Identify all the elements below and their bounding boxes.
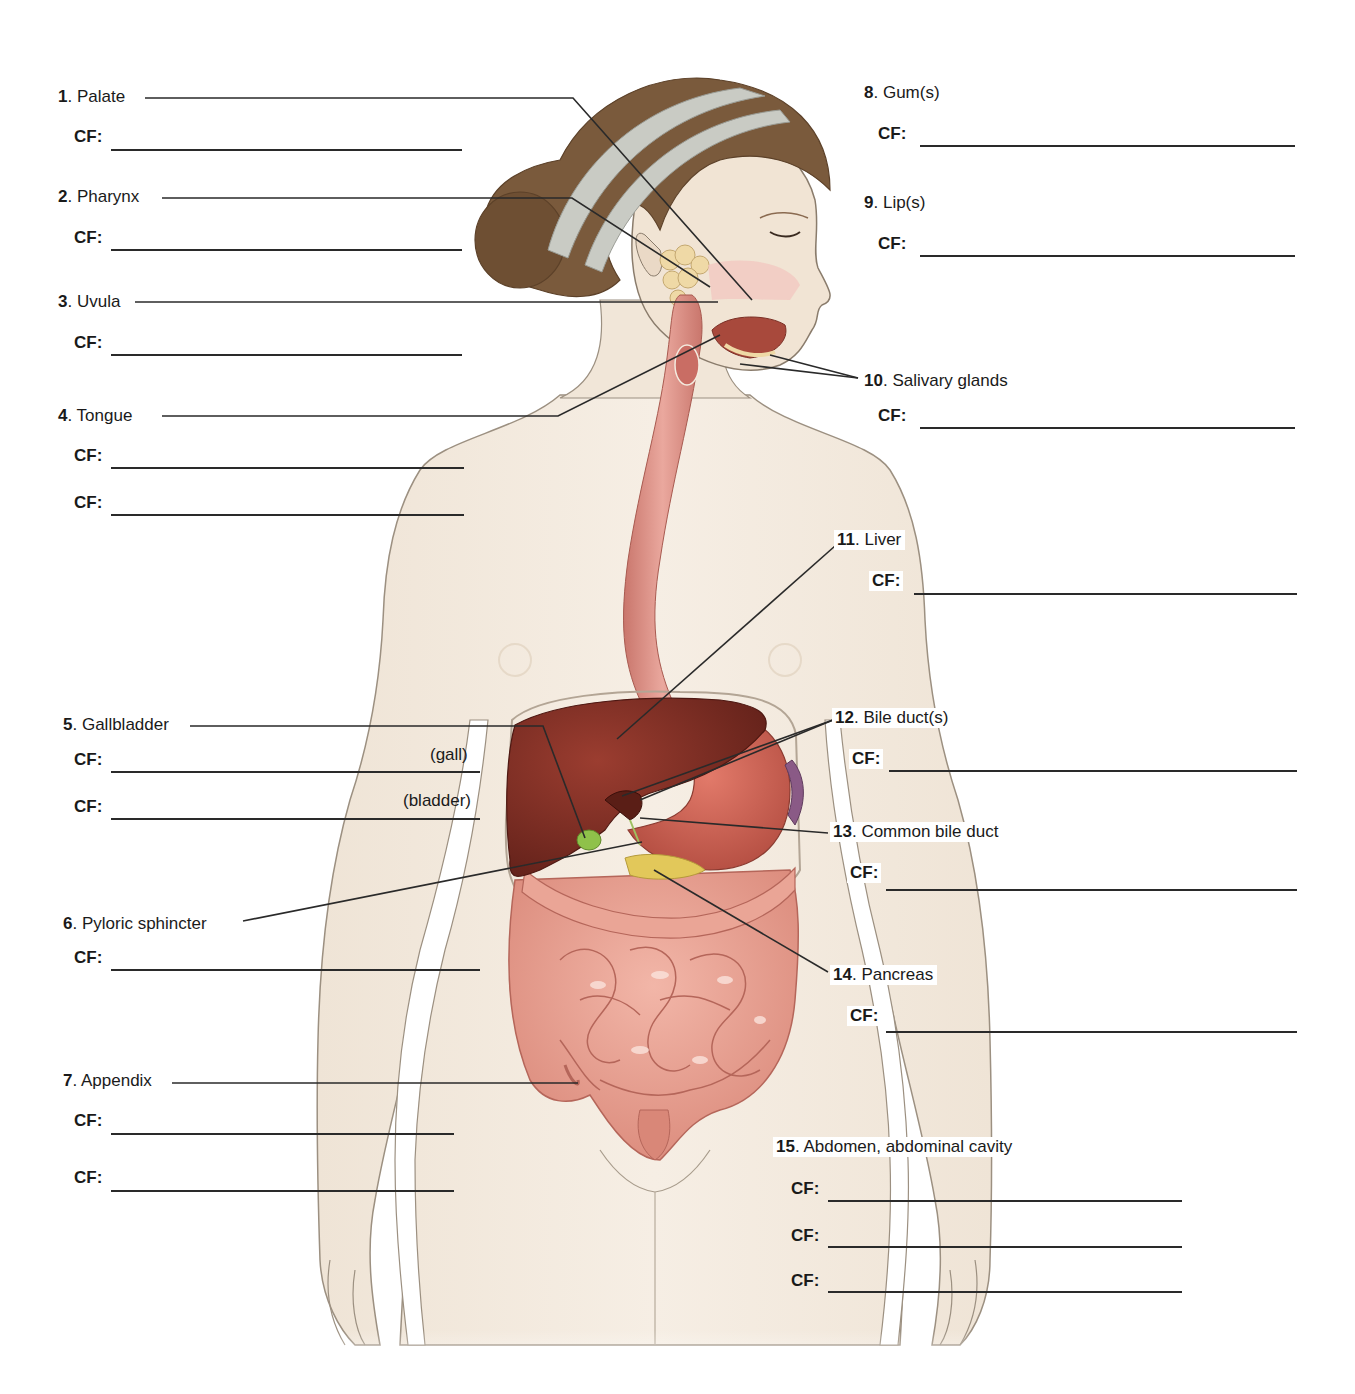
- label-lips: 9. Lip(s): [864, 193, 925, 213]
- answer-blank-pancreas[interactable]: [886, 1031, 1297, 1033]
- answer-blank-abdomen-2[interactable]: [828, 1246, 1182, 1248]
- label-pancreas: 14. Pancreas: [830, 965, 937, 985]
- label-number: 10: [864, 371, 883, 390]
- label-text: Lip(s): [883, 193, 926, 212]
- answer-blank-pyloric-sphincter[interactable]: [111, 969, 480, 971]
- label-pyloric-sphincter: 6. Pyloric sphincter: [63, 914, 207, 934]
- label-text: Abdomen, abdominal cavity: [803, 1137, 1012, 1156]
- cf-prefix: CF:: [74, 797, 102, 817]
- hint-bladder: (bladder): [403, 791, 471, 811]
- label-abdomen: 15. Abdomen, abdominal cavity: [773, 1137, 1016, 1157]
- answer-blank-tongue-1[interactable]: [111, 467, 464, 469]
- answer-blank-liver[interactable]: [914, 593, 1297, 595]
- cf-prefix: CF:: [74, 127, 102, 147]
- label-text: Bile duct(s): [863, 708, 948, 727]
- label-number: 5: [63, 715, 72, 734]
- answer-blank-gallbladder-bladder[interactable]: [111, 818, 480, 820]
- cf-prefix: CF:: [847, 863, 881, 883]
- label-number: 2: [58, 187, 67, 206]
- label-number: 15: [776, 1137, 795, 1156]
- label-text: Palate: [77, 87, 125, 106]
- label-gums: 8. Gum(s): [864, 83, 940, 103]
- gallbladder: [577, 830, 601, 850]
- answer-blank-common-bile-duct[interactable]: [886, 889, 1297, 891]
- label-number: 14: [833, 965, 852, 984]
- cf-prefix: CF:: [791, 1226, 819, 1246]
- label-uvula: 3. Uvula: [58, 292, 120, 312]
- label-number: 8: [864, 83, 873, 102]
- label-appendix: 7. Appendix: [63, 1071, 152, 1091]
- label-tongue: 4. Tongue: [58, 406, 132, 426]
- label-salivary-glands: 10. Salivary glands: [864, 371, 1008, 391]
- cf-prefix: CF:: [847, 1006, 881, 1026]
- cf-prefix: CF:: [878, 234, 906, 254]
- label-text: Pancreas: [861, 965, 933, 984]
- answer-blank-salivary-glands[interactable]: [920, 427, 1295, 429]
- label-number: 11: [837, 530, 855, 549]
- digestive-system-illustration: [0, 0, 1355, 1394]
- cf-prefix: CF:: [74, 493, 102, 513]
- label-text: Appendix: [81, 1071, 152, 1090]
- answer-blank-appendix-1[interactable]: [111, 1133, 454, 1135]
- label-text: Gallbladder: [82, 715, 169, 734]
- answer-blank-palate[interactable]: [111, 149, 462, 151]
- cf-prefix: CF:: [74, 1111, 102, 1131]
- cf-prefix: CF:: [74, 333, 102, 353]
- answer-blank-abdomen-3[interactable]: [828, 1291, 1182, 1293]
- label-number: 4: [58, 406, 67, 425]
- cf-prefix: CF:: [878, 124, 906, 144]
- answer-blank-gums[interactable]: [920, 145, 1295, 147]
- cf-prefix: CF:: [74, 446, 102, 466]
- label-number: 13: [833, 822, 852, 841]
- label-number: 7: [63, 1071, 72, 1090]
- label-text: Common bile duct: [861, 822, 998, 841]
- cf-prefix: CF:: [74, 750, 102, 770]
- answer-blank-abdomen-1[interactable]: [828, 1200, 1182, 1202]
- answer-blank-gallbladder-gall[interactable]: [111, 771, 480, 773]
- label-common-bile-duct: 13. Common bile duct: [830, 822, 1002, 842]
- label-pharynx: 2. Pharynx: [58, 187, 139, 207]
- label-text: Pharynx: [77, 187, 139, 206]
- label-text: Pyloric sphincter: [82, 914, 207, 933]
- label-number: 6: [63, 914, 72, 933]
- label-number: 9: [864, 193, 873, 212]
- answer-blank-bile-ducts[interactable]: [889, 770, 1297, 772]
- cf-prefix: CF:: [74, 1168, 102, 1188]
- cf-prefix: CF:: [791, 1271, 819, 1291]
- answer-blank-appendix-2[interactable]: [111, 1190, 454, 1192]
- label-text: Salivary glands: [892, 371, 1007, 390]
- cf-prefix: CF:: [74, 228, 102, 248]
- label-number: 1: [58, 87, 67, 106]
- cf-prefix: CF:: [74, 948, 102, 968]
- cf-prefix: CF:: [849, 749, 883, 769]
- answer-blank-lips[interactable]: [920, 255, 1295, 257]
- label-liver: 11. Liver: [834, 530, 905, 550]
- label-number: 3: [58, 292, 67, 311]
- label-text: Uvula: [77, 292, 120, 311]
- label-text: Gum(s): [883, 83, 940, 102]
- label-palate: 1. Palate: [58, 87, 125, 107]
- cf-prefix: CF:: [869, 571, 903, 591]
- label-text: Liver: [864, 530, 901, 549]
- answer-blank-pharynx[interactable]: [111, 249, 462, 251]
- answer-blank-tongue-2[interactable]: [111, 514, 464, 516]
- label-text: Tongue: [77, 406, 133, 425]
- cf-prefix: CF:: [791, 1179, 819, 1199]
- label-number: 12: [835, 708, 854, 727]
- cf-prefix: CF:: [878, 406, 906, 426]
- hint-gall: (gall): [430, 745, 468, 765]
- answer-blank-uvula[interactable]: [111, 354, 462, 356]
- label-gallbladder: 5. Gallbladder: [63, 715, 169, 735]
- label-bile-ducts: 12. Bile duct(s): [832, 708, 952, 728]
